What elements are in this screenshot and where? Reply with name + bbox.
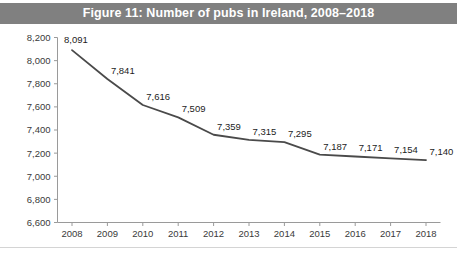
y-axis-tick-label: 7,000 [27, 171, 51, 182]
data-point-label: 7,140 [430, 146, 454, 157]
chart-plot-area: 6,6006,8007,0007,2007,4007,6007,8008,000… [0, 24, 457, 256]
data-point-label: 8,091 [64, 34, 88, 45]
x-axis-tick-label: 2010 [132, 228, 153, 239]
figure-container: Figure 11: Number of pubs in Ireland, 20… [0, 0, 457, 256]
page-title: Figure 11: Number of pubs in Ireland, 20… [0, 3, 457, 24]
data-point-label: 7,616 [146, 91, 170, 102]
data-point-label: 7,154 [394, 144, 418, 155]
y-axis-tick-label: 6,600 [27, 217, 51, 228]
x-axis-tick-label: 2014 [274, 228, 295, 239]
figure-bottom-divider [0, 247, 457, 248]
x-axis-tick-group [72, 223, 426, 227]
data-label-group: 8,0917,8417,6167,5097,3597,3157,2957,187… [64, 34, 453, 157]
data-point-label: 7,295 [288, 128, 312, 139]
x-axis-tick-label: 2012 [203, 228, 224, 239]
y-axis-tick-label: 7,400 [27, 124, 51, 135]
x-axis-tick-label: 2013 [238, 228, 259, 239]
data-point-label: 7,171 [359, 142, 383, 153]
y-axis-tick-label: 7,600 [27, 101, 51, 112]
x-axis-tick-label: 2015 [309, 228, 330, 239]
x-axis-tick-label: 2018 [415, 228, 436, 239]
y-axis-label-group: 6,6006,8007,0007,2007,4007,6007,8008,000… [27, 32, 51, 228]
y-axis-tick-label: 7,200 [27, 148, 51, 159]
x-axis-tick-label: 2011 [168, 228, 188, 239]
x-axis-tick-label: 2017 [380, 228, 401, 239]
figure-title-banner: Figure 11: Number of pubs in Ireland, 20… [0, 3, 457, 24]
line-chart: 6,6006,8007,0007,2007,4007,6007,8008,000… [0, 24, 457, 256]
y-axis-tick-label: 6,800 [27, 194, 51, 205]
data-point-label: 7,841 [111, 65, 135, 76]
y-axis-tick-label: 8,000 [27, 55, 51, 66]
data-point-label: 7,187 [323, 141, 347, 152]
x-axis-tick-label: 2016 [345, 228, 366, 239]
x-axis-tick-label: 2009 [97, 228, 118, 239]
data-point-label: 7,315 [253, 126, 277, 137]
data-point-label: 7,359 [217, 121, 241, 132]
y-axis-tick-group [54, 38, 58, 223]
data-point-label: 7,509 [182, 103, 206, 114]
y-axis-tick-label: 7,800 [27, 78, 51, 89]
x-axis-label-group: 2008200920102011201220132014201520162017… [61, 228, 436, 239]
y-axis-tick-label: 8,200 [27, 32, 51, 43]
x-axis-tick-label: 2008 [61, 228, 82, 239]
